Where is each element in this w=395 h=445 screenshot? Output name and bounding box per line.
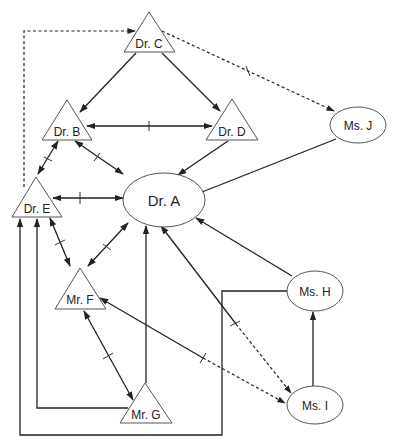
edges: [20, 31, 336, 435]
edge-drd-dra: [178, 141, 228, 175]
edge-dre-drc: [24, 31, 135, 187]
edge-msj-dra: [192, 139, 336, 196]
edge-drb-dre: [38, 141, 58, 174]
edge-tick: [200, 353, 206, 363]
node-dr-c[interactable]: Dr. C: [124, 12, 175, 52]
node-dr-e[interactable]: Dr. E: [12, 177, 62, 217]
node-label: Dr. B: [54, 125, 81, 139]
node-label: Ms. J: [344, 119, 373, 133]
edge-msh-dra: [196, 218, 292, 276]
node-dr-a[interactable]: Dr. A: [123, 173, 205, 227]
node-ms-h[interactable]: Ms. H: [287, 271, 343, 311]
node-label: Dr. E: [24, 202, 51, 216]
node-label: Ms. I: [302, 399, 328, 413]
edge-msi-dra-dashed: [236, 324, 291, 393]
node-label: Dr. D: [218, 125, 246, 139]
edge-mrf-msi: [100, 298, 203, 358]
node-label: Dr. C: [135, 37, 163, 51]
network-diagram: Dr. C Dr. B Dr. D Ms. J Dr. A Dr. E Mr. …: [0, 0, 395, 445]
edge-drc-drb: [80, 53, 136, 112]
node-label: Dr. A: [148, 192, 181, 209]
edge-dra-mrf: [88, 223, 128, 266]
node-dr-b[interactable]: Dr. B: [42, 100, 92, 140]
node-label: Mr. F: [66, 293, 93, 307]
node-mr-f[interactable]: Mr. F: [55, 268, 106, 309]
edge-msi-dra: [161, 226, 236, 324]
edge-mrg-dre: [37, 219, 128, 408]
edge-drc-drd: [162, 53, 220, 111]
edge-mrf-msi-dashed: [203, 358, 285, 403]
node-ms-i[interactable]: Ms. I: [287, 386, 343, 424]
edge-drb-dra: [75, 141, 123, 174]
node-ms-j[interactable]: Ms. J: [330, 107, 386, 143]
node-label: Ms. H: [299, 285, 330, 299]
node-mr-g[interactable]: Mr. G: [120, 383, 172, 423]
node-label: Mr. G: [131, 408, 160, 422]
